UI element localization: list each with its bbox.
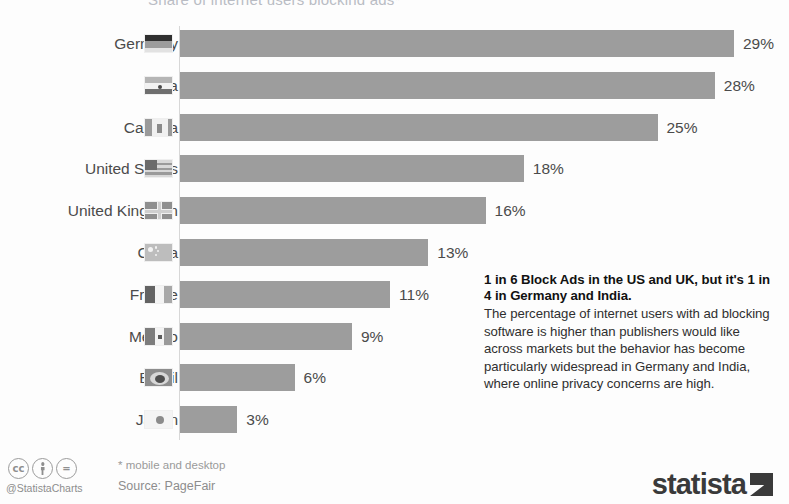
bar-value-label: 9% bbox=[361, 326, 383, 348]
flag-us-icon bbox=[144, 159, 173, 178]
flag-gb-icon bbox=[144, 201, 173, 220]
bar bbox=[180, 197, 486, 224]
bar-row: United Kingdom16% bbox=[0, 197, 789, 224]
footnote-source: Source: PageFair bbox=[118, 479, 215, 493]
chart-footer: cc = @StatistaCharts * mobile and deskto… bbox=[0, 452, 789, 504]
bar bbox=[180, 364, 295, 391]
bar-value-label: 11% bbox=[399, 284, 429, 306]
chart-page: Share of internet users blocking ads* Ge… bbox=[0, 0, 789, 504]
statista-logo-mark-icon bbox=[750, 473, 773, 496]
bar-row: China13% bbox=[0, 239, 789, 266]
bar bbox=[180, 155, 524, 182]
flag-ca-icon bbox=[144, 118, 173, 137]
annotation-block: 1 in 6 Block Ads in the US and UK, but i… bbox=[484, 272, 774, 392]
no-derivatives-equals-icon: = bbox=[56, 458, 77, 479]
bar-row: Japan3% bbox=[0, 406, 789, 433]
bar-value-label: 29% bbox=[743, 33, 774, 55]
attribution-person-icon bbox=[32, 458, 53, 479]
creative-commons-icon: cc bbox=[8, 458, 29, 479]
bar bbox=[180, 281, 390, 308]
bar bbox=[180, 72, 715, 99]
bar-value-label: 3% bbox=[246, 409, 268, 431]
flag-in-icon bbox=[144, 76, 173, 95]
bar bbox=[180, 114, 658, 141]
flag-fr-icon bbox=[144, 285, 173, 304]
flag-br-icon bbox=[144, 368, 173, 387]
bar-row: India28% bbox=[0, 72, 789, 99]
flag-de-icon bbox=[144, 34, 173, 53]
bar bbox=[180, 323, 352, 350]
bar bbox=[180, 239, 428, 266]
flag-cn-icon bbox=[144, 243, 173, 262]
annotation-headline: 1 in 6 Block Ads in the US and UK, but i… bbox=[484, 272, 774, 304]
bar-value-label: 13% bbox=[437, 242, 468, 264]
bar-value-label: 16% bbox=[495, 200, 526, 222]
bar-value-label: 18% bbox=[533, 158, 564, 180]
bar-value-label: 25% bbox=[667, 117, 698, 139]
statista-logo-text: statista bbox=[652, 470, 746, 499]
creative-commons-icons: cc = bbox=[8, 458, 77, 479]
bar bbox=[180, 30, 734, 57]
chart-title-clipped: Share of internet users blocking ads* bbox=[148, 0, 568, 5]
flag-jp-icon bbox=[144, 410, 173, 429]
bar-value-label: 6% bbox=[304, 367, 326, 389]
bar-value-label: 28% bbox=[724, 75, 755, 97]
bar-row: Canada25% bbox=[0, 114, 789, 141]
flag-mx-icon bbox=[144, 327, 173, 346]
bar-row: Germany29% bbox=[0, 30, 789, 57]
footnote-note: * mobile and desktop bbox=[118, 459, 225, 471]
statista-charts-handle: @StatistaCharts bbox=[6, 482, 83, 494]
statista-logo: statista bbox=[652, 470, 773, 499]
bar bbox=[180, 406, 237, 433]
bar-row: United States18% bbox=[0, 155, 789, 182]
annotation-body: The percentage of internet users with ad… bbox=[484, 305, 774, 392]
